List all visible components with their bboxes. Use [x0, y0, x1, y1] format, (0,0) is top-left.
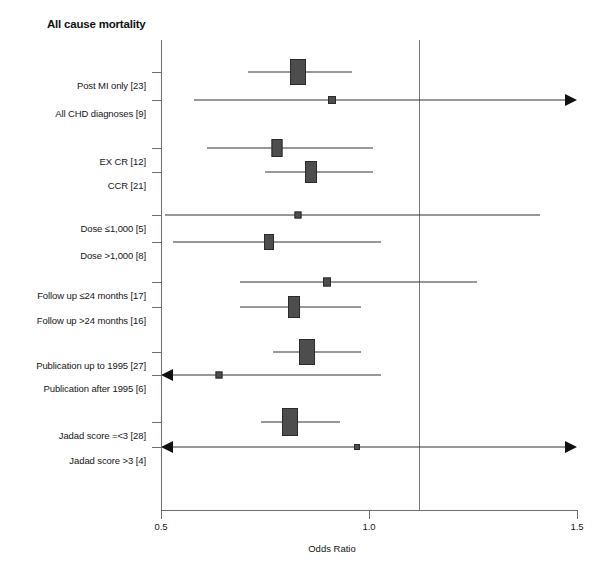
- y-axis-tick: [152, 148, 161, 149]
- confidence-interval-line: [165, 215, 539, 216]
- forest-row-label: Publication up to 1995 [27]: [36, 360, 146, 371]
- forest-row-label: Follow up ≤24 months [17]: [37, 290, 146, 301]
- y-axis-tick: [152, 375, 161, 376]
- effect-size-marker: [354, 444, 360, 450]
- null-effect-line: [419, 40, 420, 510]
- arrow-right-icon: [565, 441, 577, 453]
- forest-row-label: Post MI only [23]: [77, 80, 146, 91]
- y-axis-tick: [152, 307, 161, 308]
- y-axis-tick: [152, 282, 161, 283]
- confidence-interval-line: [194, 100, 565, 101]
- confidence-interval-line: [173, 242, 381, 243]
- page-title: All cause mortality: [47, 18, 145, 30]
- y-axis-tick: [152, 100, 161, 101]
- effect-size-marker: [264, 234, 274, 250]
- forest-row-label: Dose ≤1,000 [5]: [80, 223, 146, 234]
- y-axis-tick: [152, 447, 161, 448]
- y-axis-tick: [152, 242, 161, 243]
- x-axis-tick-label: 1.0: [362, 521, 375, 532]
- confidence-interval-line: [265, 172, 373, 173]
- x-axis-title: Odds Ratio: [0, 543, 598, 554]
- y-axis-tick: [152, 172, 161, 173]
- x-axis-tick: [577, 510, 578, 519]
- forest-row-label: EX CR [12]: [99, 156, 146, 167]
- confidence-interval-line: [173, 375, 381, 376]
- y-axis-tick: [152, 72, 161, 73]
- y-axis-tick: [152, 422, 161, 423]
- effect-size-marker: [328, 96, 336, 104]
- x-axis-tick: [161, 510, 162, 519]
- arrow-left-icon: [161, 369, 173, 381]
- confidence-interval-line: [173, 447, 565, 448]
- effect-size-marker: [282, 408, 298, 436]
- effect-size-marker: [290, 59, 306, 85]
- effect-size-marker: [216, 372, 223, 379]
- effect-size-marker: [295, 212, 302, 219]
- x-axis-tick: [369, 510, 370, 519]
- forest-row-label: CCR [21]: [108, 180, 146, 191]
- forest-row-label: Follow up >24 months [16]: [37, 315, 146, 326]
- effect-size-marker: [323, 278, 331, 287]
- confidence-interval-line: [273, 352, 360, 353]
- x-axis-title-text: Odds Ratio: [308, 543, 356, 554]
- y-axis-tick: [152, 215, 161, 216]
- effect-size-marker: [272, 139, 283, 157]
- arrow-left-icon: [161, 441, 173, 453]
- y-axis-tick: [152, 352, 161, 353]
- confidence-interval-line: [240, 282, 477, 283]
- forest-row-label: All CHD diagnoses [9]: [55, 108, 146, 119]
- forest-row-label: Dose >1,000 [8]: [80, 250, 146, 261]
- forest-row-label: Jadad score =<3 [28]: [59, 430, 146, 441]
- confidence-interval-line: [261, 422, 340, 423]
- effect-size-marker: [299, 339, 315, 365]
- effect-size-marker: [288, 296, 300, 318]
- effect-size-marker: [305, 161, 317, 183]
- confidence-interval-line: [240, 307, 361, 308]
- forest-row-label: Publication after 1995 [6]: [44, 383, 147, 394]
- x-axis-tick-label: 0.5: [154, 521, 167, 532]
- x-axis-tick-label: 1.5: [570, 521, 583, 532]
- forest-row-label: Jadad score >3 [4]: [69, 455, 146, 466]
- arrow-right-icon: [565, 94, 577, 106]
- confidence-interval-line: [207, 148, 373, 149]
- y-axis-line: [161, 40, 162, 510]
- forest-plot: All cause mortality Post MI only [23]All…: [0, 0, 598, 575]
